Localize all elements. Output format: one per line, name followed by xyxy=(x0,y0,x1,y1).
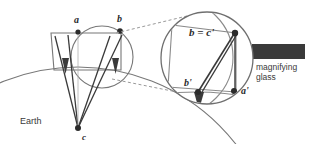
ray-c-to-a-right xyxy=(68,35,78,128)
diagram-canvas: a b c Earth xyxy=(0,0,309,144)
magnifier-group: b = c' b' a' magnifying glass xyxy=(0,0,309,144)
arrowhead-b xyxy=(112,58,119,74)
label-a-prime: a' xyxy=(241,85,249,96)
magnified-point-b-eq-c-dot xyxy=(232,30,238,36)
label-earth: Earth xyxy=(20,116,42,126)
magnifier-handle xyxy=(252,44,305,59)
label-b-prime: b' xyxy=(184,77,192,88)
label-point-a: a xyxy=(74,14,79,25)
point-c-dot xyxy=(75,125,81,131)
label-point-b: b xyxy=(117,13,122,24)
ray-c-to-a xyxy=(55,36,78,128)
magnified-earth-arc xyxy=(0,92,309,144)
label-magnifying-glass-line2: glass xyxy=(256,72,276,82)
label-point-c: c xyxy=(82,132,86,142)
ray-c-to-b-right xyxy=(78,35,122,128)
label-magnifying-glass-line1: magnifying xyxy=(256,62,297,72)
point-a-dot xyxy=(75,29,80,34)
magnified-point-b-prime-dot xyxy=(195,89,201,95)
earth-magnifier-diagram: a b c Earth xyxy=(0,0,309,144)
label-b-equals-c-prime: b = c' xyxy=(189,26,214,38)
